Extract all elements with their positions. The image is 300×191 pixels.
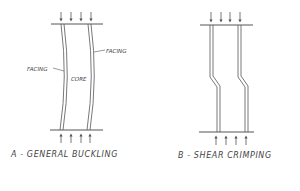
shear-crimping-figure: B - SHEAR CRIMPING [178,12,272,160]
caption-general-buckling: A - GENERAL BUCKLING [10,150,118,159]
right-facing-a [87,24,94,130]
general-buckling-figure: FACING FACING CORE A - GENERAL BUCKLING [10,12,126,159]
sandwich-failure-diagram: FACING FACING CORE A - GENERAL BUCKLING [0,0,300,191]
left-facing-a [60,24,67,130]
facing-right-label: FACING [106,48,126,54]
bottom-load-arrows-b [216,137,246,145]
bottom-load-arrows-a [61,135,90,143]
core-label: CORE [71,76,87,82]
caption-shear-crimping: B - SHEAR CRIMPING [178,151,272,160]
facing-right-leader [94,50,105,52]
top-load-arrows-b [211,12,240,21]
right-facing-b [238,25,248,132]
facing-left-leader [53,68,64,71]
top-load-arrows-a [61,12,91,20]
facing-left-label: FACING [27,66,47,72]
left-facing-b [210,25,220,132]
